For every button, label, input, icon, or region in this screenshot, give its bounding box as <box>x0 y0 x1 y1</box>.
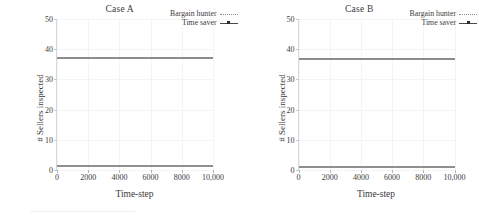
legend-swatch-solid-line-marker-icon <box>459 19 477 26</box>
y-tick-label: 20 <box>45 105 53 114</box>
legend-swatch-dotted-line-icon <box>459 10 477 17</box>
x-tick-label: 0 <box>297 173 301 182</box>
y-tick-label: 0 <box>291 166 295 175</box>
series-line-time-saver <box>57 57 213 59</box>
series-line-bargain-hunter <box>57 165 213 167</box>
legend-case-b: Bargain hunter Time saver <box>410 10 477 27</box>
x-tick-label: 2000 <box>322 173 338 182</box>
legend-case-a: Bargain hunter Time saver <box>170 10 237 27</box>
y-tick-label: 50 <box>45 15 53 24</box>
y-tick-label: 0 <box>49 166 53 175</box>
legend-swatch-dotted-line-icon <box>220 10 238 17</box>
x-tick-label: 10,000 <box>444 173 466 182</box>
figure: Case A # Sellers inspected <box>0 0 479 215</box>
y-tick-label: 30 <box>287 75 295 84</box>
y-tick-label: 50 <box>287 15 295 24</box>
legend-item-time-saver[interactable]: Time saver <box>421 19 477 27</box>
y-axis-label-case-b: # Sellers inspected <box>276 74 286 141</box>
y-tick-label: 20 <box>287 105 295 114</box>
x-tick-label: 2000 <box>80 173 96 182</box>
legend-item-bargain-hunter[interactable]: Bargain hunter <box>170 10 237 18</box>
footer-rule <box>30 211 135 212</box>
gridlines-case-b <box>299 19 455 170</box>
series-line-time-saver <box>299 58 455 60</box>
x-tick-label: 8000 <box>415 173 431 182</box>
x-tick-label: 10,000 <box>202 173 224 182</box>
gridlines-case-a <box>57 19 213 170</box>
chart-panel-case-a: Case A # Sellers inspected <box>0 0 240 215</box>
x-axis-label-case-a: Time-step <box>56 189 213 199</box>
y-axis-label-case-a: # Sellers inspected <box>35 74 45 141</box>
y-tick-label: 40 <box>287 45 295 54</box>
legend-item-bargain-hunter[interactable]: Bargain hunter <box>410 10 477 18</box>
y-tick-label: 30 <box>45 75 53 84</box>
legend-swatch-solid-line-marker-icon <box>220 19 238 26</box>
chart-panel-case-b: Case B # Sellers inspected <box>240 0 479 215</box>
legend-label-bargain-hunter: Bargain hunter <box>170 10 216 18</box>
legend-label-bargain-hunter: Bargain hunter <box>410 10 456 18</box>
plot-area-case-a: 0 10 20 30 40 50 0 2000 4000 6000 8000 1… <box>56 19 213 171</box>
plot-area-case-b: 0 10 20 30 40 50 0 2000 4000 6000 8000 1… <box>298 19 455 171</box>
legend-item-time-saver[interactable]: Time saver <box>182 19 238 27</box>
y-tick-label: 40 <box>45 45 53 54</box>
x-tick-label: 6000 <box>143 173 159 182</box>
y-tick-label: 10 <box>287 135 295 144</box>
x-tick-label: 4000 <box>353 173 369 182</box>
legend-label-time-saver: Time saver <box>421 19 456 27</box>
x-axis-label-case-b: Time-step <box>298 189 455 199</box>
y-tick-label: 10 <box>45 135 53 144</box>
x-tick-label: 6000 <box>384 173 400 182</box>
legend-label-time-saver: Time saver <box>182 19 217 27</box>
x-tick-label: 4000 <box>111 173 127 182</box>
x-tick-label: 8000 <box>174 173 190 182</box>
x-tick-label: 0 <box>55 173 59 182</box>
series-line-bargain-hunter <box>299 166 455 168</box>
